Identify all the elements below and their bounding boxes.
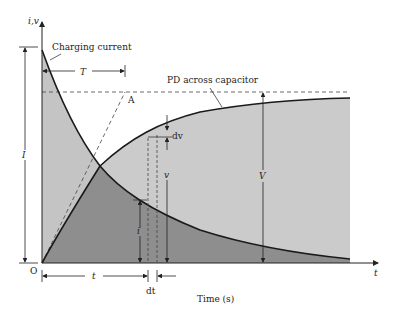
current-curve-label: Charging current (52, 42, 132, 52)
voltage-curve-label: PD across capacitor (167, 75, 259, 85)
elapsed-time-label: t (92, 271, 96, 281)
initial-current-label: I (21, 150, 26, 160)
instant-current-label: i (137, 226, 140, 236)
current-label-leader (50, 54, 61, 60)
x-axis-label: t (374, 268, 378, 278)
instant-voltage-label: v (164, 170, 169, 180)
time-constant-label: T (80, 67, 87, 77)
capacitor-charging-diagram: i,v t O Time (s) Charging current PD acr… (0, 0, 395, 322)
origin-label: O (30, 266, 37, 276)
voltage-increment-label: dv (172, 131, 184, 141)
voltage-label-leader (210, 88, 222, 107)
time-increment-label: dt (146, 286, 156, 296)
y-axis-label: i,v (28, 16, 39, 26)
x-axis-title: Time (s) (197, 294, 234, 304)
tangent-point-label: A (127, 95, 135, 105)
